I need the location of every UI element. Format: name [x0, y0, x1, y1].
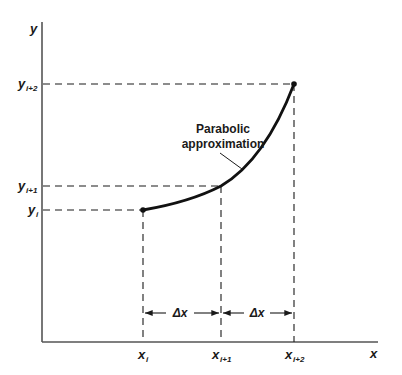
svg-text:y: y: [27, 202, 36, 217]
x-axis-label: x: [369, 346, 378, 361]
x-tick-i-plus-2: x i+2: [284, 347, 305, 364]
svg-text:y: y: [17, 178, 26, 193]
svg-text:x: x: [211, 347, 220, 362]
y-tick-i: y i: [27, 202, 39, 219]
x-tick-i-plus-1: x i+1: [211, 347, 232, 364]
parabolic-approximation-diagram: Parabolic approximation Δx Δx y x y i+2 …: [0, 0, 402, 375]
interval-label-2: Δx: [249, 306, 266, 320]
svg-text:i+1: i+1: [26, 186, 38, 195]
y-tick-i-plus-2: y i+2: [17, 76, 38, 93]
svg-text:x: x: [284, 347, 293, 362]
y-tick-i-plus-1: y i+1: [17, 178, 38, 195]
x-tick-i: x i: [137, 347, 149, 364]
point-end: [291, 81, 297, 87]
annotation-line2: approximation: [182, 137, 265, 151]
svg-text:i: i: [36, 210, 39, 219]
interval-label-1: Δx: [172, 306, 189, 320]
point-start: [140, 207, 146, 213]
svg-text:i+1: i+1: [220, 355, 232, 364]
svg-text:i+2: i+2: [293, 355, 305, 364]
svg-text:y: y: [17, 76, 26, 91]
y-axis-label: y: [29, 21, 38, 36]
svg-text:i: i: [146, 355, 149, 364]
annotation-leader: [220, 153, 242, 169]
annotation-line1: Parabolic: [196, 122, 250, 136]
svg-text:i+2: i+2: [26, 84, 38, 93]
svg-text:x: x: [137, 347, 146, 362]
